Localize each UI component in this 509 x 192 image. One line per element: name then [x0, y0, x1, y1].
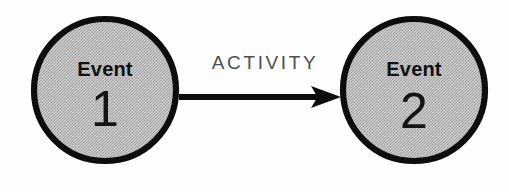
event-2-number-label: 2	[400, 83, 428, 139]
diagram-canvas: Event 1 ACTIVITY Event 2	[0, 0, 509, 192]
activity-arrow[interactable]: ACTIVITY	[179, 52, 341, 108]
node-event-1[interactable]: Event 1	[34, 19, 176, 161]
network-diagram-svg: Event 1 ACTIVITY Event 2	[0, 0, 509, 192]
event-2-word-label: Event	[386, 58, 442, 80]
event-1-word-label: Event	[77, 58, 133, 80]
node-event-2[interactable]: Event 2	[343, 19, 485, 161]
event-1-number-label: 1	[91, 81, 119, 137]
activity-edge-label: ACTIVITY	[212, 52, 318, 73]
